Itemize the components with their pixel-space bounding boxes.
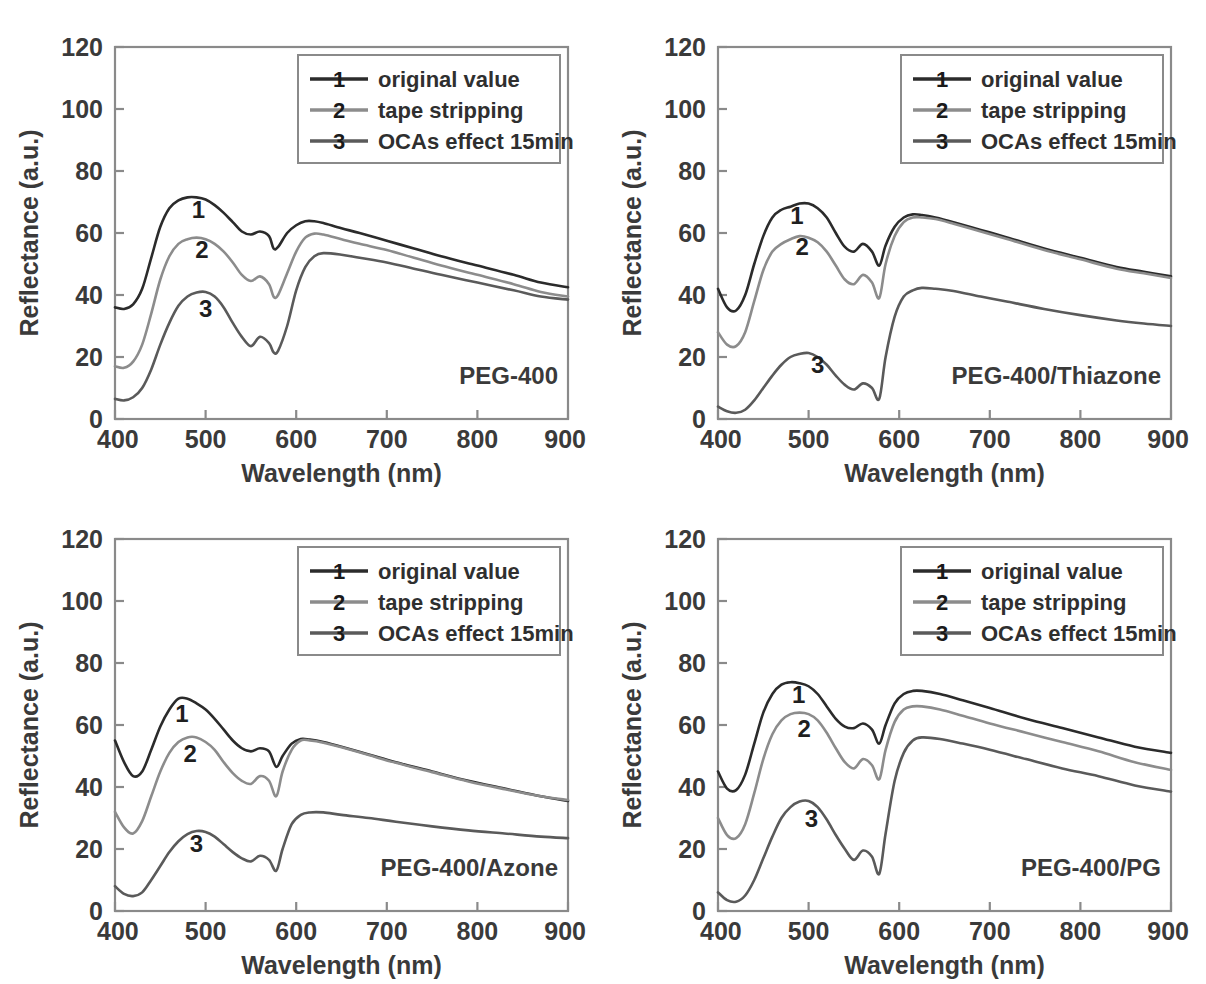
legend: 1original value2tape stripping3OCAs effe… xyxy=(298,55,574,163)
x-tick-label: 700 xyxy=(366,425,408,453)
figure-grid: 020406080100120400500600700800900Wavelen… xyxy=(0,0,1206,984)
x-tick-label: 700 xyxy=(969,425,1011,453)
x-tick-label: 600 xyxy=(878,425,920,453)
panel-annotation: PEG-400 xyxy=(459,362,558,389)
legend-marker-1: 1 xyxy=(333,67,345,92)
x-axis: 400500600700800900 xyxy=(700,902,1189,945)
y-tick-label: 100 xyxy=(664,587,706,615)
curve-label-1: 1 xyxy=(175,700,188,727)
y-tick-label: 60 xyxy=(678,219,706,247)
x-tick-label: 800 xyxy=(1060,917,1102,945)
x-axis: 400500600700800900 xyxy=(97,902,586,945)
x-axis-title: Wavelength (nm) xyxy=(241,459,441,487)
curve-series-1 xyxy=(718,203,1171,311)
legend-marker-1: 1 xyxy=(333,559,345,584)
legend-marker-3: 3 xyxy=(936,621,948,646)
curve-series-3 xyxy=(718,288,1171,413)
chart-svg-3: 020406080100120400500600700800900Wavelen… xyxy=(603,492,1206,984)
chart-panel-3: 020406080100120400500600700800900Wavelen… xyxy=(603,492,1206,984)
y-tick-label: 40 xyxy=(678,773,706,801)
legend-label-3: OCAs effect 15min xyxy=(378,621,574,646)
chart-svg-0: 020406080100120400500600700800900Wavelen… xyxy=(0,0,603,492)
curve-label-3: 3 xyxy=(190,830,203,857)
y-tick-label: 120 xyxy=(61,33,103,61)
y-tick-label: 120 xyxy=(664,525,706,553)
y-tick-label: 120 xyxy=(61,525,103,553)
legend-marker-2: 2 xyxy=(333,98,345,123)
curve-label-1: 1 xyxy=(790,202,803,229)
y-tick-label: 40 xyxy=(678,281,706,309)
x-tick-label: 500 xyxy=(788,917,830,945)
panel-annotation: PEG-400/Azone xyxy=(381,854,558,881)
x-tick-label: 400 xyxy=(97,917,139,945)
legend: 1original value2tape stripping3OCAs effe… xyxy=(298,547,574,655)
curve-label-2: 2 xyxy=(184,740,197,767)
y-tick-label: 100 xyxy=(61,587,103,615)
y-tick-label: 100 xyxy=(664,95,706,123)
panel-annotation: PEG-400/PG xyxy=(1021,854,1161,881)
x-tick-label: 400 xyxy=(700,425,742,453)
legend-label-2: tape stripping xyxy=(981,98,1126,123)
y-tick-label: 80 xyxy=(75,649,103,677)
legend-marker-3: 3 xyxy=(333,621,345,646)
legend-marker-2: 2 xyxy=(936,590,948,615)
y-tick-label: 80 xyxy=(678,157,706,185)
x-tick-label: 900 xyxy=(544,425,586,453)
legend-marker-2: 2 xyxy=(936,98,948,123)
curve-label-1: 1 xyxy=(792,681,805,708)
chart-panel-0: 020406080100120400500600700800900Wavelen… xyxy=(0,0,603,492)
legend-marker-1: 1 xyxy=(936,559,948,584)
panel-annotation: PEG-400/Thiazone xyxy=(952,362,1161,389)
legend: 1original value2tape stripping3OCAs effe… xyxy=(901,547,1177,655)
x-axis-title: Wavelength (nm) xyxy=(844,951,1044,979)
curve-series-2 xyxy=(718,706,1171,839)
x-tick-label: 900 xyxy=(1147,917,1189,945)
x-tick-label: 600 xyxy=(275,425,317,453)
x-axis: 400500600700800900 xyxy=(97,410,586,453)
x-tick-label: 400 xyxy=(97,425,139,453)
y-tick-label: 40 xyxy=(75,773,103,801)
legend-marker-3: 3 xyxy=(936,129,948,154)
y-tick-label: 60 xyxy=(678,711,706,739)
x-tick-label: 600 xyxy=(275,917,317,945)
y-tick-label: 60 xyxy=(75,219,103,247)
legend-marker-2: 2 xyxy=(333,590,345,615)
chart-svg-1: 020406080100120400500600700800900Wavelen… xyxy=(603,0,1206,492)
x-tick-label: 500 xyxy=(185,425,227,453)
chart-svg-2: 020406080100120400500600700800900Wavelen… xyxy=(0,492,603,984)
chart-panel-2: 020406080100120400500600700800900Wavelen… xyxy=(0,492,603,984)
x-tick-label: 900 xyxy=(544,917,586,945)
x-axis-title: Wavelength (nm) xyxy=(844,459,1044,487)
y-tick-label: 80 xyxy=(678,649,706,677)
legend-label-1: original value xyxy=(378,67,520,92)
y-axis-title: Reflectance (a.u.) xyxy=(15,129,43,336)
curve-label-2: 2 xyxy=(797,715,810,742)
legend-label-1: original value xyxy=(981,67,1123,92)
y-axis-title: Reflectance (a.u.) xyxy=(15,621,43,828)
y-tick-label: 20 xyxy=(678,343,706,371)
legend-marker-1: 1 xyxy=(936,67,948,92)
y-tick-label: 100 xyxy=(61,95,103,123)
x-tick-label: 700 xyxy=(366,917,408,945)
legend-label-3: OCAs effect 15min xyxy=(981,129,1177,154)
y-tick-label: 20 xyxy=(75,343,103,371)
y-tick-label: 20 xyxy=(678,835,706,863)
y-axis-title: Reflectance (a.u.) xyxy=(618,621,646,828)
x-tick-label: 500 xyxy=(788,425,830,453)
curve-label-3: 3 xyxy=(811,351,824,378)
x-tick-label: 800 xyxy=(457,917,499,945)
x-tick-label: 700 xyxy=(969,917,1011,945)
curve-label-2: 2 xyxy=(796,233,809,260)
x-tick-label: 800 xyxy=(457,425,499,453)
y-tick-label: 20 xyxy=(75,835,103,863)
legend-label-2: tape stripping xyxy=(378,590,523,615)
curve-label-3: 3 xyxy=(805,805,818,832)
legend-label-2: tape stripping xyxy=(981,590,1126,615)
y-tick-label: 80 xyxy=(75,157,103,185)
legend-label-3: OCAs effect 15min xyxy=(378,129,574,154)
y-tick-label: 60 xyxy=(75,711,103,739)
chart-panel-1: 020406080100120400500600700800900Wavelen… xyxy=(603,0,1206,492)
y-tick-label: 120 xyxy=(664,33,706,61)
legend-label-3: OCAs effect 15min xyxy=(981,621,1177,646)
curve-label-1: 1 xyxy=(192,196,205,223)
